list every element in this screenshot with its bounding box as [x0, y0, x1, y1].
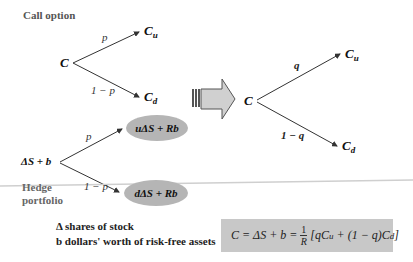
down-node: Cd: [342, 138, 355, 155]
up-prob: p: [102, 31, 108, 43]
call-option-title: Call option: [23, 9, 75, 21]
node-sub: d: [351, 145, 356, 155]
down-node: Cd: [144, 89, 157, 106]
up-prob: q: [294, 59, 300, 71]
formula-fraction: 1 R: [300, 224, 307, 247]
root-node: C: [244, 93, 253, 109]
formula-rhs-mid: + (1 − q): [334, 228, 382, 243]
cu-base: C: [321, 228, 329, 243]
legend-delta: Δ shares of stock: [56, 219, 216, 234]
node-sub: u: [354, 53, 359, 63]
formula-rhs-close: ]: [394, 228, 399, 243]
node-sub: u: [153, 30, 158, 40]
fraction-numerator: 1: [300, 224, 307, 236]
hedge-label-line2: portfolio: [22, 194, 63, 207]
down-prob: 1 − p: [91, 84, 115, 96]
cd-base: C: [382, 228, 390, 243]
node-base: C: [144, 23, 153, 38]
down-prob: 1 − q: [281, 129, 304, 141]
node-sub: d: [153, 96, 158, 106]
down-prob: 1 − p: [84, 180, 108, 192]
hedge-label-line1: Hedge: [22, 181, 63, 194]
root-node: C: [60, 55, 69, 71]
legend: Δ shares of stock b dollars' worth of ri…: [56, 219, 216, 249]
block-arrow-icon: [192, 79, 235, 119]
formula-rhs-open: [q: [310, 228, 321, 243]
hedge-portfolio-label: Hedge portfolio: [22, 181, 63, 207]
formula-box: C = ΔS + b = 1 R [qCu + (1 − q)Cd]: [221, 219, 393, 252]
legend-b: b dollars' worth of risk-free assets: [56, 234, 216, 249]
up-node: Cu: [345, 46, 359, 63]
fraction-denominator: R: [301, 236, 307, 247]
up-node: Cu: [144, 23, 158, 40]
formula-lhs: C = ΔS + b =: [231, 228, 297, 243]
node-base: C: [144, 89, 153, 104]
down-payoff-ellipse: dΔS + Rb: [124, 180, 188, 206]
node-base: C: [342, 138, 351, 153]
node-base: C: [345, 46, 354, 61]
up-payoff-ellipse: uΔS + Rb: [126, 115, 188, 141]
hedge-root-node: ΔS + b: [21, 155, 51, 167]
up-prob: p: [86, 130, 92, 142]
